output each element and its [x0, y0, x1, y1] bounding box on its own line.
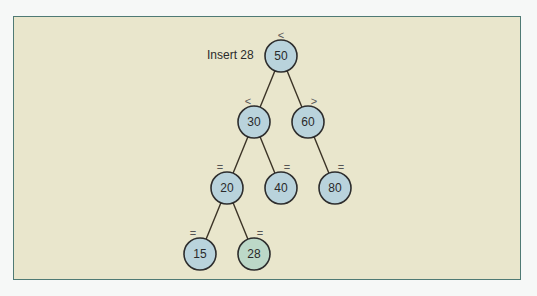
tree-edge [233, 203, 248, 239]
tree-edge [287, 71, 302, 107]
tree-node-15: 15= [184, 227, 216, 270]
comparison-marker: = [338, 161, 344, 173]
svg-text:40: 40 [274, 181, 288, 195]
tree-node-40: 40= [265, 161, 297, 204]
svg-text:28: 28 [247, 247, 261, 261]
tree-node-80: 80= [319, 161, 351, 204]
tree-edge [314, 137, 329, 173]
comparison-marker: < [278, 29, 284, 41]
tree-node-30: 30< [238, 95, 270, 138]
comparison-marker: < [245, 95, 251, 107]
svg-text:80: 80 [328, 181, 342, 195]
tree-edge [233, 137, 248, 173]
svg-text:20: 20 [220, 181, 234, 195]
tree-edge [260, 71, 275, 107]
comparison-marker: = [190, 227, 196, 239]
tree-node-60: 60> [292, 95, 324, 138]
comparison-marker: > [311, 95, 317, 107]
svg-text:15: 15 [193, 247, 207, 261]
tree-node-50: 50< [265, 29, 297, 72]
svg-text:50: 50 [274, 49, 288, 63]
svg-text:60: 60 [301, 115, 315, 129]
tree-node-20: 20= [211, 161, 243, 204]
tree-edge [260, 137, 275, 173]
binary-search-tree: 50<30<60>20=40=80=15=28= [0, 0, 537, 296]
svg-text:30: 30 [247, 115, 261, 129]
tree-node-28: 28= [238, 227, 270, 270]
tree-edge [206, 203, 221, 239]
comparison-marker: = [217, 161, 223, 173]
comparison-marker: = [257, 227, 263, 239]
comparison-marker: = [284, 161, 290, 173]
